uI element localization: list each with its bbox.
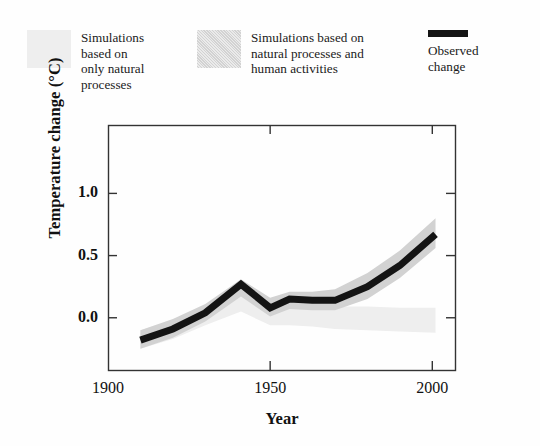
x-axis-title: Year: [108, 409, 456, 429]
uncertainty-bands: [140, 218, 435, 349]
y-tick-label: 0.5: [54, 246, 98, 264]
x-tick-label: 2000: [402, 379, 462, 397]
chart-page: Simulations based on only natural proces…: [0, 0, 540, 446]
x-tick-label: 1900: [78, 379, 138, 397]
y-tick-label: 1.0: [54, 183, 98, 201]
y-tick-label: 0.0: [54, 308, 98, 326]
x-tick-label: 1950: [240, 379, 300, 397]
y-axis-title: Temperature change (°C): [45, 33, 65, 263]
temperature-change-chart: Temperature change (°C) Year 0.00.51.0 1…: [0, 0, 540, 446]
